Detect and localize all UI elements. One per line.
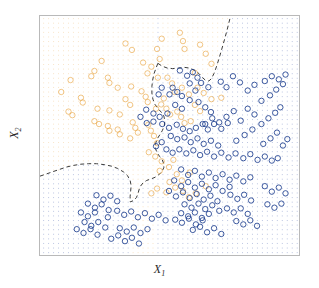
lattice-dot bbox=[187, 225, 188, 226]
data-point-class-orange bbox=[179, 178, 184, 183]
lattice-dot bbox=[257, 96, 258, 97]
lattice-dot bbox=[73, 41, 74, 42]
data-point-class-blue bbox=[159, 85, 164, 90]
data-point-class-orange bbox=[151, 133, 156, 138]
lattice-dot bbox=[133, 41, 134, 42]
lattice-dot bbox=[143, 165, 144, 166]
lattice-dot bbox=[242, 114, 243, 115]
lattice-dot bbox=[192, 64, 193, 65]
lattice-dot bbox=[287, 32, 288, 33]
lattice-dot bbox=[53, 225, 54, 226]
lattice-dot bbox=[227, 128, 228, 129]
lattice-dot bbox=[262, 23, 263, 24]
lattice-dot bbox=[118, 87, 119, 88]
lattice-dot bbox=[297, 211, 298, 212]
lattice-dot bbox=[73, 147, 74, 148]
lattice-dot bbox=[222, 225, 223, 226]
lattice-dot bbox=[202, 32, 203, 33]
lattice-dot bbox=[53, 160, 54, 161]
lattice-dot bbox=[113, 229, 114, 230]
lattice-dot bbox=[157, 252, 158, 253]
lattice-dot bbox=[202, 234, 203, 235]
lattice-dot bbox=[222, 50, 223, 51]
lattice-dot bbox=[272, 101, 273, 102]
lattice-dot bbox=[297, 165, 298, 166]
lattice-dot bbox=[103, 119, 104, 120]
lattice-dot bbox=[128, 46, 129, 47]
lattice-dot bbox=[68, 55, 69, 56]
lattice-dot bbox=[58, 243, 59, 244]
lattice-dot bbox=[277, 243, 278, 244]
lattice-dot bbox=[98, 202, 99, 203]
lattice-dot bbox=[257, 133, 258, 134]
lattice-dot bbox=[133, 234, 134, 235]
lattice-dot bbox=[58, 197, 59, 198]
lattice-dot bbox=[212, 128, 213, 129]
lattice-dot bbox=[153, 105, 154, 106]
lattice-dot bbox=[88, 133, 89, 134]
lattice-dot bbox=[297, 69, 298, 70]
lattice-dot bbox=[222, 151, 223, 152]
lattice-dot bbox=[68, 197, 69, 198]
lattice-dot bbox=[277, 174, 278, 175]
lattice-dot bbox=[282, 160, 283, 161]
data-point-class-blue bbox=[252, 82, 257, 87]
lattice-dot bbox=[207, 46, 208, 47]
lattice-dot bbox=[192, 206, 193, 207]
lattice-dot bbox=[262, 238, 263, 239]
lattice-dot bbox=[287, 110, 288, 111]
lattice-dot bbox=[217, 101, 218, 102]
lattice-dot bbox=[277, 147, 278, 148]
lattice-dot bbox=[277, 234, 278, 235]
lattice-dot bbox=[73, 243, 74, 244]
lattice-dot bbox=[78, 50, 79, 51]
lattice-dot bbox=[202, 59, 203, 60]
lattice-dot bbox=[282, 174, 283, 175]
lattice-dot bbox=[148, 23, 149, 24]
lattice-dot bbox=[48, 55, 49, 56]
lattice-dot bbox=[197, 229, 198, 230]
lattice-dot bbox=[242, 87, 243, 88]
lattice-dot bbox=[103, 238, 104, 239]
lattice-dot bbox=[43, 18, 44, 19]
lattice-dot bbox=[138, 225, 139, 226]
lattice-dot bbox=[262, 179, 263, 180]
lattice-dot bbox=[272, 18, 273, 19]
lattice-dot bbox=[138, 170, 139, 171]
lattice-dot bbox=[202, 183, 203, 184]
lattice-dot bbox=[207, 32, 208, 33]
lattice-dot bbox=[143, 174, 144, 175]
lattice-dot bbox=[177, 101, 178, 102]
data-point-class-blue bbox=[228, 192, 233, 197]
lattice-dot bbox=[78, 69, 79, 70]
lattice-dot bbox=[148, 137, 149, 138]
lattice-dot bbox=[123, 202, 124, 203]
lattice-dot bbox=[103, 248, 104, 249]
lattice-dot bbox=[143, 220, 144, 221]
lattice-dot bbox=[68, 142, 69, 143]
lattice-dot bbox=[277, 32, 278, 33]
lattice-dot bbox=[262, 96, 263, 97]
lattice-dot bbox=[247, 192, 248, 193]
lattice-dot bbox=[73, 50, 74, 51]
lattice-dot bbox=[182, 165, 183, 166]
lattice-dot bbox=[247, 206, 248, 207]
lattice-dot bbox=[68, 36, 69, 37]
data-point-class-orange bbox=[182, 46, 187, 51]
lattice-dot bbox=[237, 96, 238, 97]
lattice-dot bbox=[43, 92, 44, 93]
lattice-dot bbox=[133, 36, 134, 37]
lattice-dot bbox=[133, 206, 134, 207]
lattice-dot bbox=[98, 55, 99, 56]
lattice-dot bbox=[153, 82, 154, 83]
lattice-dot bbox=[282, 64, 283, 65]
lattice-dot bbox=[252, 73, 253, 74]
lattice-dot bbox=[202, 27, 203, 28]
lattice-dot bbox=[98, 174, 99, 175]
lattice-dot bbox=[297, 124, 298, 125]
lattice-dot bbox=[167, 32, 168, 33]
lattice-dot bbox=[292, 133, 293, 134]
lattice-dot bbox=[113, 59, 114, 60]
lattice-dot bbox=[128, 202, 129, 203]
lattice-dot bbox=[252, 23, 253, 24]
